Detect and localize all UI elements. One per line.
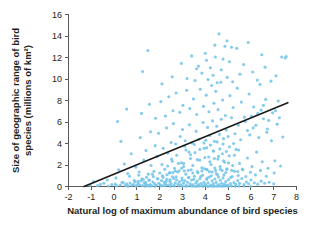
data-point (233, 170, 236, 173)
data-point (162, 176, 165, 179)
data-point (199, 88, 202, 91)
data-point (119, 140, 122, 143)
data-point (141, 70, 144, 73)
data-point (240, 101, 243, 104)
data-point (125, 108, 128, 111)
data-point (193, 151, 196, 154)
data-point (172, 122, 175, 125)
data-point (217, 155, 220, 158)
data-point (190, 168, 193, 171)
data-point (206, 177, 209, 180)
data-point (171, 171, 174, 174)
data-point (197, 65, 200, 68)
data-point (193, 143, 196, 146)
data-point (217, 175, 220, 178)
data-point (198, 148, 201, 151)
data-point (214, 90, 217, 93)
data-point (189, 157, 192, 160)
data-point (213, 177, 216, 180)
data-point (209, 66, 212, 69)
data-point (256, 183, 259, 186)
data-point (237, 148, 240, 151)
data-point (201, 184, 204, 187)
data-point (114, 176, 117, 179)
data-point (224, 180, 227, 183)
data-point (165, 173, 168, 176)
data-point (247, 41, 250, 44)
data-point (211, 179, 214, 182)
x-tick-label: 8 (294, 192, 299, 202)
data-point (147, 184, 150, 187)
data-point (162, 147, 165, 150)
data-point (241, 168, 244, 171)
data-point (238, 73, 241, 76)
data-point (272, 182, 275, 185)
data-point (269, 80, 272, 83)
data-point (139, 136, 142, 139)
data-point (222, 159, 225, 162)
data-point (179, 135, 182, 138)
data-point (166, 165, 169, 168)
data-point (280, 55, 283, 58)
data-point (266, 127, 269, 130)
data-point (215, 125, 218, 128)
data-point (191, 164, 194, 167)
x-tick-label: 2 (157, 192, 162, 202)
data-point (256, 79, 259, 82)
data-point (201, 121, 204, 124)
y-axis-title-line2: species (millions of km²) (22, 45, 33, 156)
data-point (154, 144, 157, 147)
data-point (252, 105, 255, 108)
data-point (249, 179, 252, 182)
data-point (147, 173, 150, 176)
data-point (232, 142, 235, 145)
data-point (271, 111, 274, 114)
data-point (262, 104, 265, 107)
data-point (205, 59, 208, 62)
data-point (237, 184, 240, 187)
x-tick-label: 6 (248, 192, 253, 202)
data-point (193, 175, 196, 178)
data-point (230, 184, 233, 187)
data-point (145, 176, 148, 179)
data-point (226, 76, 229, 79)
data-point (203, 167, 206, 170)
x-tick-label: 1 (134, 192, 139, 202)
data-point (213, 157, 216, 160)
data-point (154, 117, 157, 120)
data-point (225, 168, 228, 171)
data-point (186, 77, 189, 80)
data-point (263, 66, 266, 69)
y-tick-label: 4 (57, 139, 62, 149)
data-point (181, 128, 184, 131)
y-tick-label: 2 (57, 160, 62, 170)
data-point (249, 185, 252, 188)
data-point (190, 54, 193, 57)
data-point (230, 46, 233, 49)
data-point (211, 119, 214, 122)
y-tick-label: 6 (57, 117, 62, 127)
data-point (236, 179, 239, 182)
data-point (277, 99, 280, 102)
data-point (212, 74, 215, 77)
data-point (218, 147, 221, 150)
data-point (260, 180, 263, 183)
data-point (184, 148, 187, 151)
data-point (217, 32, 220, 35)
data-point (209, 163, 212, 166)
data-point (169, 178, 172, 181)
data-point (236, 87, 239, 90)
data-point (218, 133, 221, 136)
data-point (217, 108, 220, 111)
data-point (281, 136, 284, 139)
scatter-plot-figure: 0246810121416 -2-1012345678 Natural log … (0, 0, 317, 234)
data-point (209, 144, 212, 147)
data-point (259, 169, 262, 172)
data-point (238, 182, 241, 185)
data-point (191, 185, 194, 188)
data-point (158, 172, 161, 175)
y-tick-label: 14 (52, 31, 62, 41)
data-point (213, 44, 216, 47)
data-point (186, 181, 189, 184)
data-point (212, 102, 215, 105)
